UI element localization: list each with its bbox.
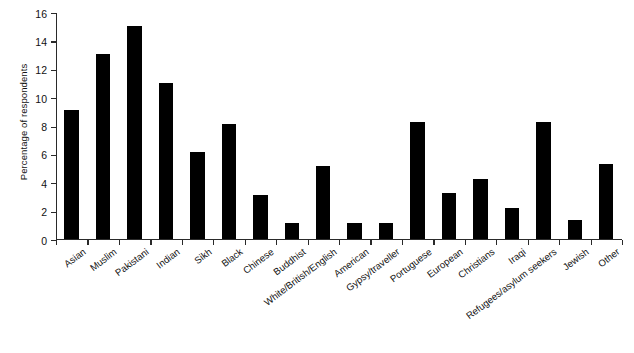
bar	[410, 122, 424, 238]
y-axis-line	[56, 13, 57, 240]
y-axis-tick: 4	[51, 183, 56, 184]
y-axis-tick-label: 14	[35, 37, 47, 48]
y-axis-tick-label: 10	[35, 93, 47, 104]
x-axis-tick-label: Other	[596, 246, 622, 269]
y-axis-tick-label: 8	[41, 122, 47, 133]
bar	[127, 26, 141, 239]
y-axis-tick-label: 2	[41, 207, 47, 218]
y-axis-tick: 16	[51, 13, 56, 14]
y-axis-tick: 10	[51, 98, 56, 99]
y-axis-tick-label: 4	[41, 179, 47, 190]
y-axis-tick: 12	[51, 70, 56, 71]
y-axis-tick-label: 0	[41, 235, 47, 246]
bar	[159, 83, 173, 239]
y-axis-tick-label: 6	[41, 150, 47, 161]
plot-area: 0246810121416	[56, 13, 622, 240]
x-axis-tick-label: Indian	[154, 246, 181, 271]
y-axis-tick: 2	[51, 212, 56, 213]
x-axis-labels: AsianMuslimPakistaniIndianSikhBlackChine…	[56, 240, 634, 353]
y-axis-tick-label: 16	[35, 8, 47, 19]
bar	[190, 152, 204, 239]
bar	[222, 124, 236, 239]
bar	[64, 110, 78, 239]
bar-chart: Percentage of respondents 0246810121416 …	[0, 0, 634, 353]
bar	[96, 54, 110, 238]
x-axis-tick-label: Sikh	[192, 246, 214, 266]
bar	[536, 122, 550, 238]
y-axis-tick: 14	[51, 41, 56, 42]
y-axis-tick: 6	[51, 155, 56, 156]
x-axis-tick-label: Iraqi	[506, 246, 528, 266]
y-axis-tick: 8	[51, 127, 56, 128]
y-axis-tick-label: 12	[35, 65, 47, 76]
x-axis-tick-label: Black	[219, 246, 244, 269]
x-axis-tick-label: Asian	[62, 246, 88, 269]
y-axis-title: Percentage of respondents	[16, 2, 32, 242]
